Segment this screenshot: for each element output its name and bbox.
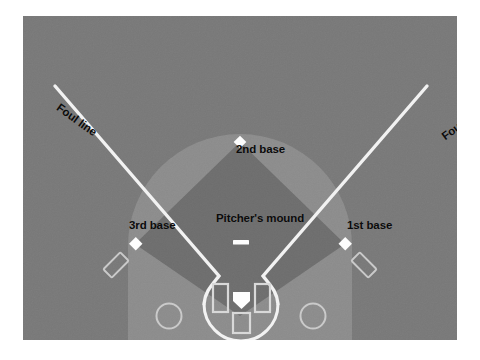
field-graphic [23, 16, 457, 340]
label-second-base: 2nd base [236, 144, 285, 156]
label-first-base: 1st base [347, 220, 392, 232]
label-third-base: 3rd base [129, 220, 176, 232]
baseball-field-diagram: Foul line Foul line 2nd base Pitcher's m… [0, 0, 480, 360]
field-panel: Foul line Foul line 2nd base Pitcher's m… [23, 16, 457, 340]
label-pitchers-mound: Pitcher's mound [216, 213, 304, 225]
grain-texture [23, 16, 457, 340]
